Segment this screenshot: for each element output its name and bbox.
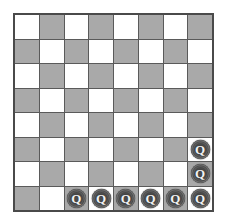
board-square-r0c1[interactable] (40, 15, 64, 39)
queen-label: Q (170, 192, 180, 205)
board-square-r2c6[interactable] (164, 64, 188, 88)
board-square-r1c5[interactable] (139, 40, 163, 64)
queen-label: Q (121, 192, 131, 205)
queen-label: Q (195, 192, 205, 205)
board-square-r0c0[interactable] (15, 15, 39, 39)
queen-label: Q (195, 167, 205, 180)
board-square-r3c2[interactable] (65, 89, 89, 113)
board-square-r7c5[interactable]: Q (139, 187, 163, 211)
board-square-r6c6[interactable] (164, 162, 188, 186)
board-square-r6c3[interactable] (89, 162, 113, 186)
queen-piece-r7c3[interactable]: Q (92, 189, 111, 208)
board-square-r3c0[interactable] (15, 89, 39, 113)
queen-piece-r7c2[interactable]: Q (67, 189, 86, 208)
queen-label: Q (96, 192, 106, 205)
board-square-r3c4[interactable] (114, 89, 138, 113)
board-square-r5c5[interactable] (139, 138, 163, 162)
queen-piece-r7c6[interactable]: Q (166, 189, 185, 208)
board-square-r5c4[interactable] (114, 138, 138, 162)
board-square-r2c7[interactable] (188, 64, 212, 88)
queen-piece-r7c7[interactable]: Q (191, 189, 210, 208)
board-square-r5c6[interactable] (164, 138, 188, 162)
board-square-r0c6[interactable] (164, 15, 188, 39)
board-square-r4c7[interactable] (188, 113, 212, 137)
board-square-r3c7[interactable] (188, 89, 212, 113)
chessboard-grid: QQQQQQQQ (15, 15, 212, 210)
board-square-r0c5[interactable] (139, 15, 163, 39)
chessboard[interactable]: QQQQQQQQ (13, 13, 214, 212)
board-square-r7c6[interactable]: Q (164, 187, 188, 211)
board-square-r1c6[interactable] (164, 40, 188, 64)
board-square-r1c7[interactable] (188, 40, 212, 64)
board-square-r1c3[interactable] (89, 40, 113, 64)
board-square-r1c0[interactable] (15, 40, 39, 64)
board-square-r0c3[interactable] (89, 15, 113, 39)
board-square-r5c3[interactable] (89, 138, 113, 162)
board-square-r2c0[interactable] (15, 64, 39, 88)
board-square-r7c0[interactable] (15, 187, 39, 211)
queen-piece-r7c5[interactable]: Q (141, 189, 160, 208)
board-square-r0c7[interactable] (188, 15, 212, 39)
board-square-r6c0[interactable] (15, 162, 39, 186)
board-square-r5c0[interactable] (15, 138, 39, 162)
board-square-r4c1[interactable] (40, 113, 64, 137)
board-square-r4c6[interactable] (164, 113, 188, 137)
board-square-r4c0[interactable] (15, 113, 39, 137)
queen-piece-r6c7[interactable]: Q (191, 164, 210, 183)
board-square-r5c1[interactable] (40, 138, 64, 162)
queen-label: Q (195, 143, 205, 156)
board-square-r7c3[interactable]: Q (89, 187, 113, 211)
board-square-r6c2[interactable] (65, 162, 89, 186)
board-square-r6c4[interactable] (114, 162, 138, 186)
board-square-r3c6[interactable] (164, 89, 188, 113)
board-square-r7c2[interactable]: Q (65, 187, 89, 211)
board-square-r2c3[interactable] (89, 64, 113, 88)
board-square-r5c2[interactable] (65, 138, 89, 162)
board-square-r7c4[interactable]: Q (114, 187, 138, 211)
board-square-r6c7[interactable]: Q (188, 162, 212, 186)
board-square-r2c4[interactable] (114, 64, 138, 88)
board-square-r2c5[interactable] (139, 64, 163, 88)
board-square-r2c2[interactable] (65, 64, 89, 88)
board-square-r1c4[interactable] (114, 40, 138, 64)
queen-piece-r7c4[interactable]: Q (116, 189, 135, 208)
board-square-r3c5[interactable] (139, 89, 163, 113)
board-square-r7c7[interactable]: Q (188, 187, 212, 211)
board-square-r3c3[interactable] (89, 89, 113, 113)
board-square-r1c2[interactable] (65, 40, 89, 64)
board-square-r4c3[interactable] (89, 113, 113, 137)
board-square-r0c4[interactable] (114, 15, 138, 39)
board-square-r4c4[interactable] (114, 113, 138, 137)
queen-label: Q (71, 192, 81, 205)
board-square-r2c1[interactable] (40, 64, 64, 88)
queen-piece-r5c7[interactable]: Q (191, 140, 210, 159)
board-square-r4c5[interactable] (139, 113, 163, 137)
board-square-r7c1[interactable] (40, 187, 64, 211)
board-square-r6c1[interactable] (40, 162, 64, 186)
board-square-r3c1[interactable] (40, 89, 64, 113)
board-square-r6c5[interactable] (139, 162, 163, 186)
queen-label: Q (146, 192, 156, 205)
board-square-r4c2[interactable] (65, 113, 89, 137)
board-square-r1c1[interactable] (40, 40, 64, 64)
board-square-r5c7[interactable]: Q (188, 138, 212, 162)
board-square-r0c2[interactable] (65, 15, 89, 39)
